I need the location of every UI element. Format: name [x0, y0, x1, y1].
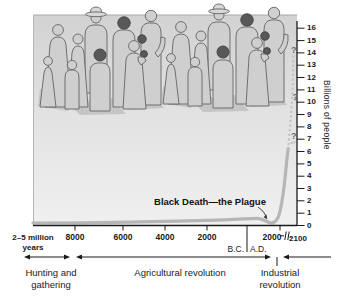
era-industrial-line1: Industrial — [261, 267, 300, 278]
y-tick-label: 2 — [307, 196, 325, 205]
bc-label: B.C. — [225, 244, 244, 254]
question-mark-mid: ? — [293, 92, 299, 102]
era-industrial-line2: revolution — [259, 279, 300, 290]
x-tick-label-2000ad: 2000 — [263, 232, 282, 242]
x-tick-label: 2000 — [198, 232, 217, 242]
ad-label: A.D. — [250, 244, 267, 254]
y-tick-marks — [297, 28, 305, 225]
x-origin-label-line1: 2–5 million — [12, 233, 53, 242]
y-tick-label: 1 — [307, 208, 325, 217]
black-death-annotation: Black Death—the Plague — [154, 196, 266, 207]
y-tick-label: 0 — [307, 221, 325, 230]
x-tick-label: 4000 — [156, 232, 175, 242]
y-tick-label: 16 — [307, 23, 325, 32]
era-hunting-line1: Hunting and — [25, 267, 76, 278]
x-tick-label: 6000 — [114, 232, 133, 242]
y-axis-title: Billions of people — [322, 80, 332, 150]
x-tick-label: 8000 — [66, 232, 85, 242]
y-tick-label: 4 — [307, 171, 325, 180]
y-tick-label: 14 — [307, 48, 325, 57]
y-tick-label: 5 — [307, 159, 325, 168]
x-tick-marks — [75, 226, 280, 231]
population-growth-chart: 16 15 14 13 12 11 10 9 8 7 6 5 4 3 2 1 0… — [0, 0, 342, 306]
era-agricultural: Agricultural revolution — [134, 267, 225, 278]
x-tick-label-2100: 2100 — [289, 234, 307, 243]
x-origin-label-line2: years — [23, 243, 44, 252]
y-tick-label: 3 — [307, 184, 325, 193]
question-mark-low: ? — [291, 131, 297, 141]
y-tick-label: 13 — [307, 60, 325, 69]
era-timeline — [24, 255, 331, 266]
question-mark-high: ? — [291, 45, 297, 55]
era-hunting-line2: gathering — [31, 279, 71, 290]
y-tick-label: 15 — [307, 36, 325, 45]
